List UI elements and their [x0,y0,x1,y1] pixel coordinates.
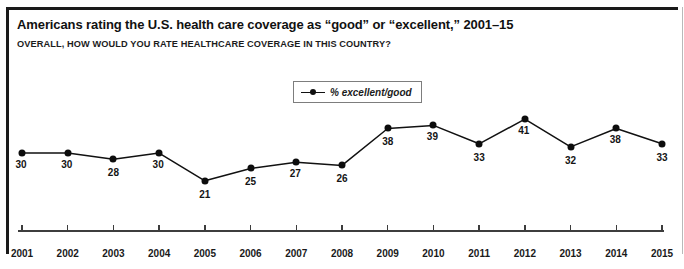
x-axis-label-2004: 2004 [148,248,170,259]
x-axis-label-2002: 2002 [57,248,79,259]
x-axis-label-2011: 2011 [468,248,490,259]
data-point-2014 [613,125,620,132]
data-point-2003 [110,156,117,163]
data-point-2011 [476,140,483,147]
x-tick-2011 [478,225,479,230]
data-label-2009: 38 [382,136,393,147]
data-point-2010 [430,122,437,129]
x-tick-2002 [67,225,68,230]
data-point-2006 [247,165,254,172]
data-point-2015 [659,140,666,147]
data-label-2004: 30 [153,159,164,170]
legend-line-marker-icon [301,88,325,97]
x-axis-label-2013: 2013 [559,248,581,259]
data-point-2004 [156,150,163,157]
data-label-2001: 30 [15,159,26,170]
frame-top-rule [6,7,678,10]
data-label-2008: 26 [336,173,347,184]
x-tick-2012 [524,225,525,230]
x-axis-label-2014: 2014 [605,248,627,259]
x-axis-label-2009: 2009 [377,248,399,259]
data-label-2010: 39 [427,131,438,142]
x-tick-2007 [296,225,297,230]
data-label-2011: 33 [474,152,485,163]
x-axis-label-2006: 2006 [239,248,261,259]
chart-subtitle: OVERALL, HOW WOULD YOU RATE HEALTHCARE C… [17,38,391,49]
x-tick-2013 [570,225,571,230]
x-tick-2003 [113,225,114,230]
data-point-2012 [521,116,528,123]
data-point-2008 [339,162,346,169]
chart-figure: Americans rating the U.S. health care co… [0,0,684,269]
data-point-2002 [64,150,71,157]
x-tick-2005 [204,225,205,230]
data-label-2006: 25 [245,176,256,187]
data-label-2015: 33 [656,152,667,163]
data-point-2013 [567,143,574,150]
x-axis-label-2008: 2008 [331,248,353,259]
x-axis-label-2010: 2010 [422,248,444,259]
chart-title: Americans rating the U.S. health care co… [17,17,513,32]
x-tick-2006 [250,225,251,230]
chart-legend: % excellent/good [293,81,422,103]
x-tick-2014 [616,225,617,230]
data-label-2012: 41 [518,125,529,136]
x-axis-label-2005: 2005 [194,248,216,259]
x-axis-label-2003: 2003 [102,248,124,259]
data-label-2007: 27 [290,168,301,179]
data-label-2003: 28 [108,167,119,178]
data-point-2007 [293,159,300,166]
x-axis-label-2007: 2007 [285,248,307,259]
data-point-2001 [19,150,26,157]
legend-label: % excellent/good [330,87,412,98]
data-label-2005: 21 [199,189,210,200]
x-tick-2004 [158,225,159,230]
data-point-2005 [201,177,208,184]
data-label-2013: 32 [565,155,576,166]
x-axis-label-2012: 2012 [514,248,536,259]
x-axis-label-2001: 2001 [11,248,33,259]
x-axis-label-2015: 2015 [651,248,673,259]
x-tick-2015 [661,225,662,230]
data-label-2002: 30 [61,159,72,170]
x-tick-2001 [21,225,22,230]
x-tick-2010 [433,225,434,230]
frame-right-rule [682,7,683,254]
x-tick-2009 [387,225,388,230]
data-point-2009 [384,125,391,132]
data-label-2014: 38 [610,134,621,145]
frame-left-rule [6,7,9,254]
x-tick-2008 [341,225,342,230]
x-axis-line [18,230,664,232]
